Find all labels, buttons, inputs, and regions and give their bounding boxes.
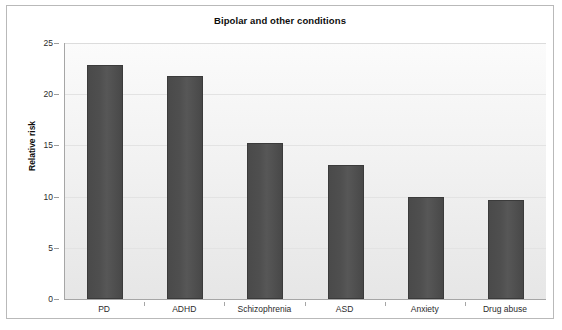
y-tick-label: 25 [44,38,53,48]
x-tick-mark [465,302,466,306]
y-tick-mark [54,94,59,95]
y-tick-label: 0 [48,294,53,304]
y-tick-mark [54,248,59,249]
plot-area [64,43,546,300]
y-tick-label: 5 [48,243,53,253]
y-tick-mark [54,197,59,198]
bars-layer [65,43,546,299]
bar-anxiety [408,197,444,299]
y-tick-mark [54,299,59,300]
x-tick-label: Anxiety [411,304,439,314]
bar-schizophrenia [247,143,283,299]
bar-asd [328,165,364,299]
bar-drug-abuse [488,200,524,299]
x-tick-mark [144,302,145,306]
chart-frame: Bipolar and other conditions Relative ri… [6,5,554,319]
x-tick-label: ASD [336,304,353,314]
bar-adhd [167,76,203,299]
bar-pd [87,65,123,299]
x-tick-mark [224,302,225,306]
x-tick-label: Drug abuse [483,304,527,314]
x-tick-mark [305,302,306,306]
chart-title: Bipolar and other conditions [7,15,553,26]
y-tick-mark [54,145,59,146]
y-tick-label: 10 [44,192,53,202]
x-tick-label: ADHD [172,304,196,314]
x-tick-label: Schizophrenia [237,304,291,314]
y-axis: 0510152025 [7,6,64,318]
y-tick-mark [54,43,59,44]
x-axis: PDADHDSchizophreniaASDAnxietyDrug abuse [64,302,545,324]
x-tick-mark [385,302,386,306]
y-tick-label: 20 [44,89,53,99]
x-tick-label: PD [98,304,110,314]
y-tick-label: 15 [44,140,53,150]
